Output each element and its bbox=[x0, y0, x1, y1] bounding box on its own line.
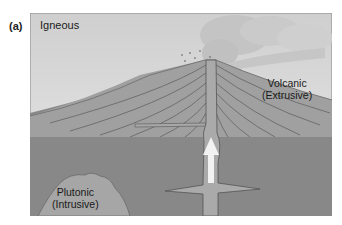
diagram-title: Igneous bbox=[40, 19, 79, 31]
plutonic-label-line2: (Intrusive) bbox=[52, 198, 99, 210]
sill bbox=[135, 123, 206, 127]
plutonic-label-line1: Plutonic bbox=[52, 186, 99, 198]
volcanic-label: Volcanic (Extrusive) bbox=[262, 77, 312, 101]
volcanic-label-line1: Volcanic bbox=[262, 77, 312, 89]
plutonic-label: Plutonic (Intrusive) bbox=[52, 186, 99, 210]
volcanic-label-line2: (Extrusive) bbox=[262, 89, 312, 101]
panel-label: (a) bbox=[9, 20, 22, 32]
